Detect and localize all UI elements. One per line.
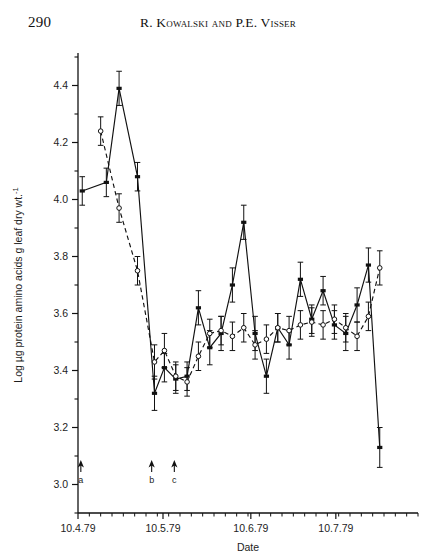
data-point-open [98, 129, 103, 134]
annotations-group: abc [78, 460, 178, 485]
data-point-open [207, 331, 212, 336]
data-point-open [377, 266, 382, 271]
axes-group: 3.03.23.43.63.84.04.24.410.4.7910.5.7910… [53, 53, 418, 534]
data-point-open [309, 320, 314, 325]
data-point-filled [80, 189, 85, 192]
x-tick-label: 10.7.79 [318, 522, 353, 534]
x-tick-label: 10.6.79 [233, 522, 268, 534]
data-point-filled [152, 392, 157, 395]
data-point-filled [230, 283, 235, 286]
data-point-open [253, 343, 258, 348]
y-tick-label: 4.0 [53, 193, 68, 205]
data-point-open [355, 334, 360, 339]
data-point-filled [241, 221, 246, 224]
data-point-open [275, 325, 280, 330]
data-point-open [298, 323, 303, 328]
y-tick-label: 3.6 [53, 307, 68, 319]
y-tick-label: 3.4 [53, 364, 68, 376]
data-point-open [219, 328, 224, 333]
data-point-open [162, 348, 167, 353]
data-point-open [343, 325, 348, 330]
figure-panel: 3.03.23.43.63.84.04.24.410.4.7910.5.7910… [0, 0, 436, 559]
data-point-filled [320, 289, 325, 292]
axis-labels-group: DateLog µg protein amino acids g leaf dr… [11, 187, 259, 553]
y-tick-label: 4.4 [53, 79, 68, 91]
data-point-filled [135, 175, 140, 178]
data-point-open [135, 268, 140, 273]
data-point-filled [377, 446, 382, 449]
y-tick-label: 3.0 [53, 478, 68, 490]
data-point-filled [196, 306, 201, 309]
series-group [79, 71, 382, 467]
data-point-filled [366, 263, 371, 266]
y-tick-label: 3.2 [53, 421, 68, 433]
data-point-open [196, 354, 201, 359]
data-point-open [332, 317, 337, 322]
annotation-label-b: b [149, 475, 154, 485]
x-tick-label: 10.5.79 [145, 522, 180, 534]
data-point-open [117, 206, 122, 211]
y-axis-title: Log µg protein amino acids g leaf dry wt… [11, 187, 24, 382]
data-point-open [152, 360, 157, 365]
data-point-filled [354, 303, 359, 306]
data-point-open [241, 325, 246, 330]
data-point-filled [298, 278, 303, 281]
series-line-dashed [101, 131, 380, 382]
data-point-open [366, 314, 371, 319]
x-tick-label: 10.4.79 [60, 522, 95, 534]
data-point-filled [116, 87, 121, 90]
data-point-filled [264, 375, 269, 378]
annotation-label-c: c [172, 475, 177, 485]
data-point-filled [104, 181, 109, 184]
chart-svg: 3.03.23.43.63.84.04.24.410.4.7910.5.7910… [0, 0, 436, 559]
y-tick-label: 4.2 [53, 136, 68, 148]
data-point-open [287, 328, 292, 333]
data-point-open [230, 334, 235, 339]
data-point-open [185, 380, 190, 385]
y-tick-label: 3.8 [53, 250, 68, 262]
data-point-open [321, 323, 326, 328]
data-point-open [264, 337, 269, 342]
annotation-label-a: a [78, 475, 83, 485]
x-axis-title: Date [237, 541, 259, 553]
data-point-open [173, 374, 178, 379]
